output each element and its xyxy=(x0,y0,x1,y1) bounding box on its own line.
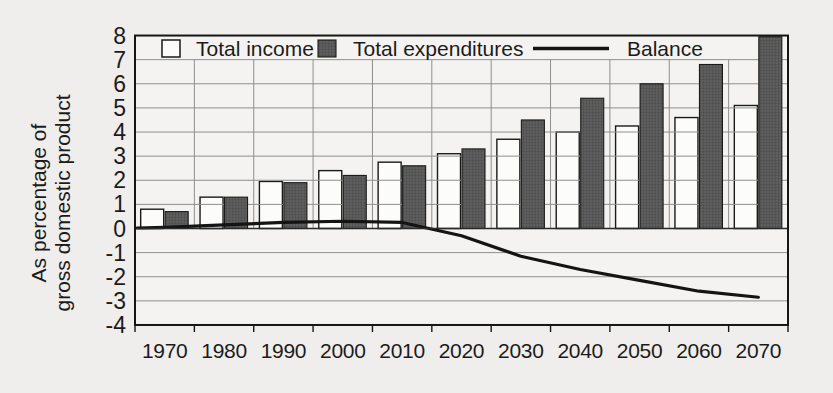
chart-canvas: 876543210-1-2-3-419701980199020002010202… xyxy=(0,0,833,393)
y-tick-label-6: 6 xyxy=(113,71,126,97)
x-tick-label-1990: 1990 xyxy=(261,339,307,362)
bar-total-income-1970 xyxy=(141,209,164,228)
x-tick-label-2030: 2030 xyxy=(498,339,544,362)
y-tick-label-5: 5 xyxy=(113,95,126,121)
x-tick-label-1970: 1970 xyxy=(142,339,188,362)
x-tick-label-2000: 2000 xyxy=(320,339,366,362)
bar-total-expenditures-2010 xyxy=(403,166,426,229)
legend-balance-label: Balance xyxy=(627,37,703,60)
x-tick-label-2020: 2020 xyxy=(439,339,485,362)
bar-total-income-2070 xyxy=(734,105,757,228)
bar-total-income-2060 xyxy=(675,118,698,229)
bar-total-income-2050 xyxy=(616,126,639,229)
x-tick-label-2060: 2060 xyxy=(676,339,722,362)
bar-total-expenditures-2050 xyxy=(640,84,663,229)
y-tick-label--1: -1 xyxy=(106,240,126,266)
y-tick-label--2: -2 xyxy=(106,264,126,290)
bar-total-expenditures-2070 xyxy=(759,37,782,229)
bar-total-expenditures-2060 xyxy=(699,64,722,228)
y-tick-label-8: 8 xyxy=(113,23,126,49)
x-tick-label-1980: 1980 xyxy=(201,339,247,362)
bar-total-income-2010 xyxy=(378,162,401,228)
legend-total-expenditures-swatch-icon xyxy=(318,40,336,57)
social-security-gdp-chart-figure: 876543210-1-2-3-419701980199020002010202… xyxy=(0,0,833,393)
x-tick-label-2050: 2050 xyxy=(617,339,663,362)
bar-total-income-2020 xyxy=(438,154,461,229)
y-tick-label-2: 2 xyxy=(113,167,126,193)
bar-total-expenditures-2040 xyxy=(581,98,604,228)
bar-total-income-2030 xyxy=(497,139,520,228)
y-tick-label-3: 3 xyxy=(113,143,126,169)
legend-total-income-label: Total income xyxy=(196,37,314,60)
y-tick-label-7: 7 xyxy=(113,47,126,73)
legend-total-expenditures-label: Total expenditures xyxy=(353,37,523,60)
legend-total-income-swatch-icon xyxy=(162,40,180,57)
y-tick-label-4: 4 xyxy=(113,119,126,145)
y-tick-label--3: -3 xyxy=(106,288,126,314)
y-tick-label-1: 1 xyxy=(113,191,126,217)
y-axis-title-line-1: As percentage of xyxy=(27,123,50,282)
y-tick-label-0: 0 xyxy=(113,216,126,242)
y-axis-title-line-2: gross domestic product xyxy=(51,94,74,311)
x-tick-label-2040: 2040 xyxy=(557,339,603,362)
bar-total-expenditures-2030 xyxy=(521,120,544,229)
y-tick-label--4: -4 xyxy=(106,312,127,338)
bar-total-expenditures-2020 xyxy=(462,149,485,229)
x-tick-label-2070: 2070 xyxy=(736,339,782,362)
x-tick-label-2010: 2010 xyxy=(379,339,425,362)
